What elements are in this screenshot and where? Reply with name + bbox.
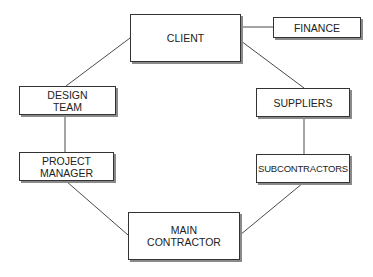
edge-project-manager-main-contractor: [66, 181, 128, 235]
edge-subcontractors-main-contractor: [240, 183, 303, 235]
node-client: CLIENT: [130, 14, 241, 62]
edge-client-design-team: [66, 38, 130, 86]
node-project-manager: PROJECT MANAGER: [19, 152, 114, 181]
node-design-team: DESIGN TEAM: [19, 86, 116, 115]
diagram-canvas: CLIENT FINANCE DESIGN TEAM SUPPLIERS PRO…: [0, 0, 373, 277]
node-main-contractor: MAIN CONTRACTOR: [128, 212, 240, 260]
node-finance: FINANCE: [273, 17, 361, 38]
node-suppliers: SUPPLIERS: [256, 88, 350, 117]
node-subcontractors: SUBCONTRACTORS: [256, 154, 350, 183]
edge-client-suppliers: [241, 41, 304, 88]
